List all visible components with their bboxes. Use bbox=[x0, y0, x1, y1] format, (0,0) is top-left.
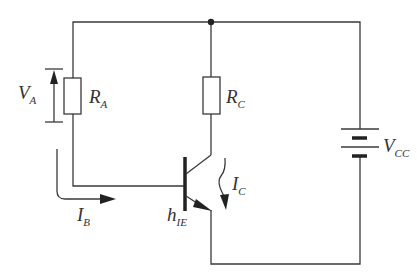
resistor-rc bbox=[203, 77, 220, 114]
junction-dot bbox=[208, 19, 214, 25]
label-ic: IC bbox=[231, 173, 246, 197]
ic-arrow bbox=[219, 158, 225, 196]
emitter-arrow-icon bbox=[193, 199, 212, 211]
ib-arrowhead-icon bbox=[100, 194, 116, 204]
va-voltage-arrow bbox=[45, 69, 63, 122]
npn-transistor bbox=[185, 155, 212, 211]
label-ra: RA bbox=[88, 86, 108, 110]
label-rc: RC bbox=[225, 86, 246, 110]
label-va: VA bbox=[18, 82, 37, 106]
circuit-diagram: RA RC VA IB hIE IC VCC bbox=[0, 0, 417, 276]
ib-arrow bbox=[57, 149, 100, 199]
wires bbox=[73, 22, 360, 264]
ic-arrowhead-icon bbox=[220, 194, 229, 210]
label-vcc: VCC bbox=[383, 135, 410, 159]
resistor-ra bbox=[64, 78, 81, 114]
label-ib: IB bbox=[76, 204, 90, 228]
base-wire bbox=[73, 114, 184, 186]
battery-vcc bbox=[341, 129, 379, 156]
